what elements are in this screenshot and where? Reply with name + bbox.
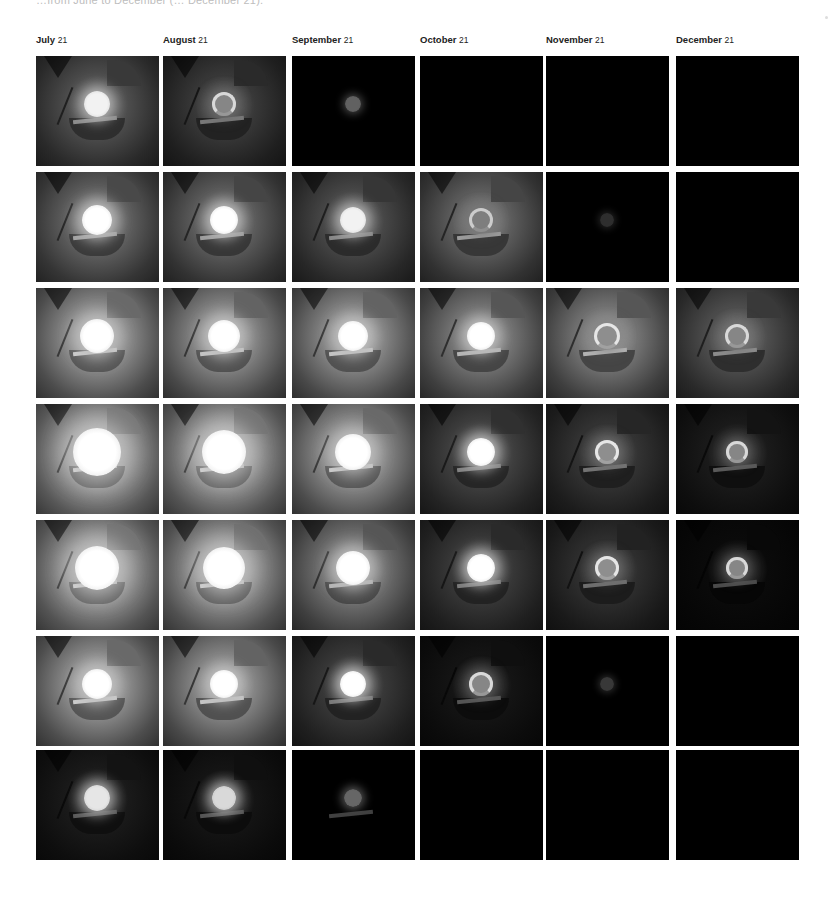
render-thumbnail	[36, 750, 159, 860]
light-disc	[84, 91, 110, 117]
light-disc	[210, 670, 238, 698]
render-thumbnail	[420, 172, 543, 282]
render-thumbnail	[292, 404, 415, 514]
shadow-wedge	[300, 520, 328, 542]
shadow-wedge	[171, 172, 199, 194]
render-thumbnail	[676, 636, 799, 746]
shadow-wedge	[171, 288, 199, 310]
shadow-wedge	[428, 288, 456, 310]
shadow-wedge	[554, 404, 582, 426]
render-thumbnail	[163, 172, 286, 282]
light-disc	[345, 96, 361, 112]
shadow-wedge	[300, 404, 328, 426]
day-label: 21	[595, 35, 604, 45]
render-thumbnail	[676, 288, 799, 398]
column-header-september: September 21	[292, 34, 353, 45]
light-disc	[340, 207, 366, 233]
render-thumbnail	[36, 520, 159, 630]
render-thumbnail	[420, 56, 543, 166]
shadow-wedge	[684, 288, 712, 310]
render-thumbnail	[546, 520, 669, 630]
day-label: 21	[459, 35, 468, 45]
shadow-wedge	[300, 288, 328, 310]
shadow-wedge	[684, 404, 712, 426]
light-disc	[82, 669, 112, 699]
light-ring	[595, 440, 619, 464]
month-label: September	[292, 34, 344, 45]
render-thumbnail	[420, 288, 543, 398]
shadow-wedge	[300, 636, 328, 658]
shadow-wedge	[171, 636, 199, 658]
shadow-wedge	[171, 56, 199, 78]
column-header-july: July 21	[36, 34, 67, 45]
ambient-light	[676, 56, 799, 166]
light-ring	[595, 556, 619, 580]
render-thumbnail	[292, 172, 415, 282]
light-disc	[212, 786, 236, 810]
ambient-light	[420, 56, 543, 166]
shadow-wedge	[44, 520, 72, 542]
render-thumbnail	[292, 750, 415, 860]
light-ring	[469, 672, 493, 696]
month-label: August	[163, 34, 198, 45]
render-thumbnail	[676, 404, 799, 514]
column-header-november: November 21	[546, 34, 605, 45]
light-disc	[210, 206, 238, 234]
light-disc	[467, 322, 495, 350]
render-thumbnail	[36, 56, 159, 166]
column-headers: July 21August 21September 21October 21No…	[36, 34, 806, 50]
ambient-light	[546, 750, 669, 860]
shadow-wedge	[428, 172, 456, 194]
stray-mark	[825, 16, 828, 19]
render-thumbnail	[420, 404, 543, 514]
render-thumbnail	[546, 404, 669, 514]
render-thumbnail	[676, 750, 799, 860]
ambient-light	[546, 172, 669, 282]
light-disc	[202, 430, 246, 474]
shadow-wedge	[44, 750, 72, 772]
light-disc	[208, 320, 240, 352]
render-thumbnail	[420, 636, 543, 746]
render-thumbnail	[292, 520, 415, 630]
light-disc	[82, 205, 112, 235]
light-disc	[340, 671, 366, 697]
render-thumbnail	[163, 288, 286, 398]
render-thumbnail	[163, 56, 286, 166]
month-label: July	[36, 34, 58, 45]
shadow-wedge	[428, 636, 456, 658]
render-thumbnail	[546, 750, 669, 860]
column-header-december: December 21	[676, 34, 734, 45]
light-disc	[84, 785, 110, 811]
ambient-light	[546, 56, 669, 166]
ambient-light	[546, 636, 669, 746]
render-thumbnail	[292, 56, 415, 166]
render-thumbnail	[36, 404, 159, 514]
render-thumbnail	[676, 172, 799, 282]
ambient-light	[420, 750, 543, 860]
month-label: November	[546, 34, 595, 45]
light-disc	[80, 319, 114, 353]
shadow-wedge	[171, 520, 199, 542]
shadow-wedge	[44, 288, 72, 310]
light-disc	[600, 213, 614, 227]
ambient-light	[676, 172, 799, 282]
light-disc	[75, 546, 119, 590]
day-label: 21	[58, 35, 67, 45]
render-thumbnail	[292, 288, 415, 398]
shadow-wedge	[428, 404, 456, 426]
ambient-light	[676, 750, 799, 860]
shadow-wedge	[300, 750, 328, 772]
light-disc	[338, 321, 368, 351]
light-ring	[726, 441, 748, 463]
shadow-wedge	[684, 520, 712, 542]
render-thumbnail	[420, 520, 543, 630]
light-ring	[212, 92, 236, 116]
light-disc	[600, 677, 614, 691]
figure-caption: …from June to December (… December 21).	[36, 0, 263, 6]
light-disc	[344, 789, 362, 807]
day-label: 21	[725, 35, 734, 45]
shadow-wedge	[44, 636, 72, 658]
shadow-wedge	[428, 520, 456, 542]
light-disc	[203, 547, 245, 589]
light-study-grid	[36, 56, 800, 860]
